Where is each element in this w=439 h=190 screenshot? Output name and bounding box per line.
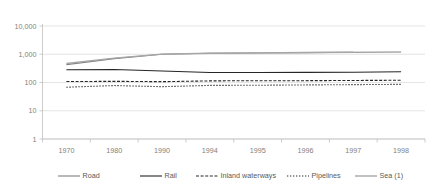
y-tick-label: 1 [33, 135, 37, 144]
x-tick-label: 1994 [202, 146, 218, 155]
x-tick-label: 1995 [250, 146, 266, 155]
y-tick-label: 10 [29, 106, 37, 115]
legend-label: Inland waterways [221, 171, 277, 180]
x-tick-label: 1980 [106, 146, 122, 155]
x-tick-label: 1997 [345, 146, 361, 155]
x-tick-label: 1970 [58, 146, 74, 155]
plot-background [0, 0, 439, 190]
y-tick-label: 100 [25, 78, 37, 87]
legend-label: Pipelines [312, 171, 342, 180]
legend-label: Rail [165, 171, 178, 180]
x-tick-label: 1996 [297, 146, 313, 155]
line-chart: 10,0001,000100101 1970198019901994199519… [0, 0, 439, 190]
chart-canvas: 10,0001,000100101 1970198019901994199519… [0, 0, 439, 190]
x-tick-label: 1990 [154, 146, 170, 155]
x-tick-label: 1998 [393, 146, 409, 155]
legend-label: Road [83, 171, 100, 180]
y-tick-label: 10,000 [15, 22, 37, 31]
y-tick-label: 1,000 [19, 50, 37, 59]
legend-label: Sea (1) [380, 171, 404, 180]
